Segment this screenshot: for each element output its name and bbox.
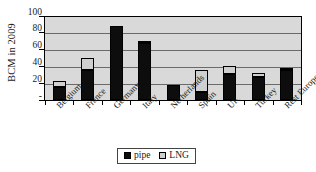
bar-group[interactable] bbox=[110, 16, 123, 100]
bar-segment-lng[interactable] bbox=[280, 68, 293, 71]
bar-group[interactable] bbox=[81, 16, 94, 100]
bar-group[interactable] bbox=[53, 16, 66, 100]
bar-group[interactable] bbox=[223, 16, 236, 100]
y-axis-title-text: BCM in 2009 bbox=[6, 23, 17, 82]
legend-label: pipe bbox=[134, 150, 150, 161]
bar-group[interactable] bbox=[167, 16, 180, 100]
bar-segment-pipe[interactable] bbox=[138, 43, 151, 99]
bar-group[interactable] bbox=[280, 16, 293, 100]
legend-entry-pipe[interactable]: pipe bbox=[124, 150, 150, 161]
bar-group[interactable] bbox=[252, 16, 265, 100]
bar-segment-lng[interactable] bbox=[252, 73, 265, 77]
bar-segment-pipe[interactable] bbox=[110, 26, 123, 100]
bar-segment-lng[interactable] bbox=[138, 41, 151, 43]
legend: pipeLNG bbox=[117, 148, 196, 164]
bar-segment-lng[interactable] bbox=[53, 81, 66, 87]
bar-segment-lng[interactable] bbox=[81, 58, 94, 70]
x-axis-category-labels: BelgiumFranceGermanyItalyNetherlandsSpai… bbox=[44, 104, 302, 150]
bar-segment-lng[interactable] bbox=[223, 66, 236, 74]
legend-swatch-icon bbox=[159, 152, 166, 159]
bar-chart: BCM in 2009 10080604020- BelgiumFranceGe… bbox=[0, 0, 316, 172]
legend-swatch-icon bbox=[124, 152, 131, 159]
legend-entry-lng[interactable]: LNG bbox=[159, 150, 189, 161]
legend-label: LNG bbox=[169, 150, 189, 161]
